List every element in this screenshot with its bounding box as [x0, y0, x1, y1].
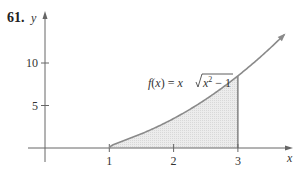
x-tick-label: 1	[106, 154, 112, 168]
y-axis-arrow-icon	[43, 11, 48, 19]
x-axis-arrow-icon	[285, 146, 293, 151]
function-label: f(x) = x x2 − 1	[148, 74, 233, 90]
function-plot: 123 510 y x f(x) = x x2 − 1	[0, 0, 300, 170]
svg-text:x2 − 1: x2 − 1	[202, 75, 231, 90]
x-tick-label: 3	[235, 154, 241, 168]
svg-text:f(x) = x: f(x) = x	[148, 76, 183, 90]
y-tick-label: 5	[32, 99, 38, 113]
y-axis-label: y	[30, 11, 37, 25]
x-tick-label: 2	[171, 154, 177, 168]
x-axis-label: x	[286, 151, 293, 165]
y-tick-label: 10	[26, 56, 38, 70]
